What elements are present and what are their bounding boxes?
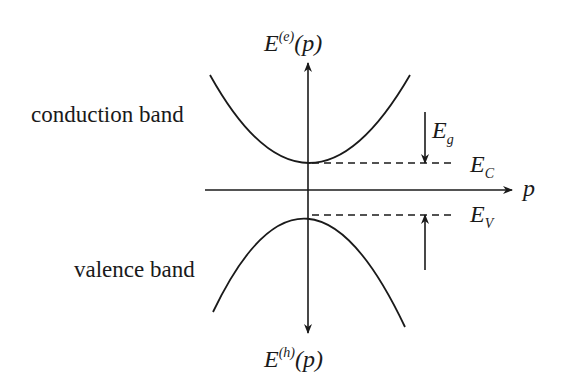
conduction-edge-label: EC — [470, 152, 494, 181]
hole-energy-base: E — [264, 346, 279, 372]
valence-edge-sub: V — [485, 216, 494, 231]
hole-energy-sup: (h) — [279, 345, 295, 360]
electron-energy-label: E(e)(p) — [264, 30, 322, 55]
band-gap-base: E — [432, 117, 447, 143]
momentum-axis-label: p — [523, 176, 535, 200]
valence-edge-base: E — [470, 201, 485, 227]
electron-energy-arg: (p) — [294, 30, 322, 56]
electron-energy-sup: (e) — [279, 29, 295, 44]
conduction-band-label: conduction band — [31, 103, 184, 126]
electron-energy-base: E — [264, 30, 279, 56]
valence-band-curve — [213, 219, 405, 327]
valence-band-label: valence band — [74, 258, 195, 281]
band-diagram — [0, 0, 570, 381]
conduction-band-curve — [210, 75, 410, 163]
band-gap-label: Eg — [432, 118, 454, 147]
conduction-edge-base: E — [470, 151, 485, 177]
valence-edge-label: EV — [470, 202, 493, 231]
hole-energy-label: E(h)(p) — [264, 346, 323, 371]
hole-energy-arg: (p) — [295, 346, 323, 372]
band-gap-sub: g — [447, 132, 454, 147]
conduction-edge-sub: C — [485, 166, 494, 181]
